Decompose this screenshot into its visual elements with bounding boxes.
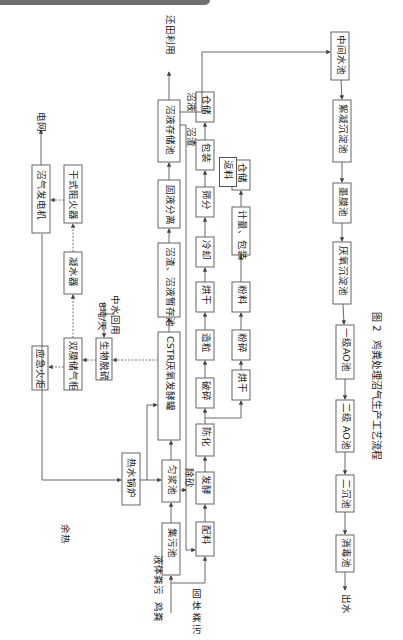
label-collection-pond: 集污池 xyxy=(168,528,178,558)
label-slurry-storage: 沼液存储池 xyxy=(166,105,176,155)
label-waste-heat: 余热 xyxy=(61,524,71,544)
label-packing: 包装 xyxy=(202,143,212,163)
label-drying1: 烘干 xyxy=(202,285,212,305)
label-intermediate: 中间水池 xyxy=(337,35,347,75)
label-separation: 固液分离 xyxy=(166,185,176,225)
label-grid: 电网 xyxy=(37,112,47,132)
label-solid: 固体粪污 xyxy=(192,588,204,636)
label-crushing: 破碎 xyxy=(202,381,212,401)
label-condenser: 凝水器 xyxy=(69,257,79,287)
label-reuse-water: 中水回用 xyxy=(111,295,121,335)
label-homogenizing-pond: 匀浆池 xyxy=(168,465,178,495)
label-ao2: 二级 AO池 xyxy=(342,403,352,450)
label-storage1: 仓储 xyxy=(202,95,212,115)
label-source: 鸡粪 xyxy=(154,602,164,622)
caption-number: 图 2 xyxy=(371,312,381,332)
label-gas-holder: 双膜储气柜 xyxy=(69,341,79,391)
label-biogas-slurry: 沼液 xyxy=(187,92,197,112)
label-return: 返料 xyxy=(224,160,234,180)
label-field-use: 还田利用 xyxy=(166,15,176,55)
label-flame-arrester: 干式阻火器 xyxy=(69,170,79,220)
label-desulfur: 生物脱硫 xyxy=(100,341,110,381)
label-screening: 筛分 xyxy=(202,190,212,210)
label-effluent: 出水 xyxy=(342,594,352,614)
label-boiler: 热水锅炉 xyxy=(127,458,137,498)
label-ao1: 一级AO池 xyxy=(342,328,352,372)
label-drying2: 烘干 xyxy=(238,373,248,393)
label-cooling: 冷却 xyxy=(202,240,212,260)
label-generator: 沼气发电机 xyxy=(37,170,47,220)
label-powder: 粉料 xyxy=(238,285,248,305)
label-cstr: CSTR厌氧发酵罐 xyxy=(166,336,176,411)
label-mixing: 配料 xyxy=(202,525,212,545)
label-aging: 陈化 xyxy=(202,427,212,447)
label-coag-sed: 絮凝沉淀池 xyxy=(339,104,349,154)
label-granulating: 造粒 xyxy=(202,333,212,353)
label-flare: 应急火炬 xyxy=(36,349,46,389)
label-weigh-pack: 计量、包装 xyxy=(238,210,248,260)
label-sand-removal: 除砂 xyxy=(185,468,195,488)
caption-title: 鸡粪处理沼气生产工艺流程 xyxy=(371,340,381,460)
label-liquid: 液体粪污 xyxy=(154,555,164,595)
label-digestate: 沼渣 xyxy=(187,127,197,147)
label-secondary-sed: 二沉池 xyxy=(342,479,352,509)
label-temp-storage: 沼渣、沼液暂存池 xyxy=(166,247,176,327)
label-fermentation: 发酵 xyxy=(202,475,212,495)
label-membrane: 墨膜池 xyxy=(339,187,349,217)
label-disinfection: 消毒池 xyxy=(342,538,352,568)
label-anaerobic-sed: 厌氧沉淀池 xyxy=(339,246,349,296)
label-reuse-rate: 8吨/天 xyxy=(98,302,108,331)
label-pulverize: 粉碎 xyxy=(238,333,248,353)
label-storage2: 仓储 xyxy=(238,163,248,183)
